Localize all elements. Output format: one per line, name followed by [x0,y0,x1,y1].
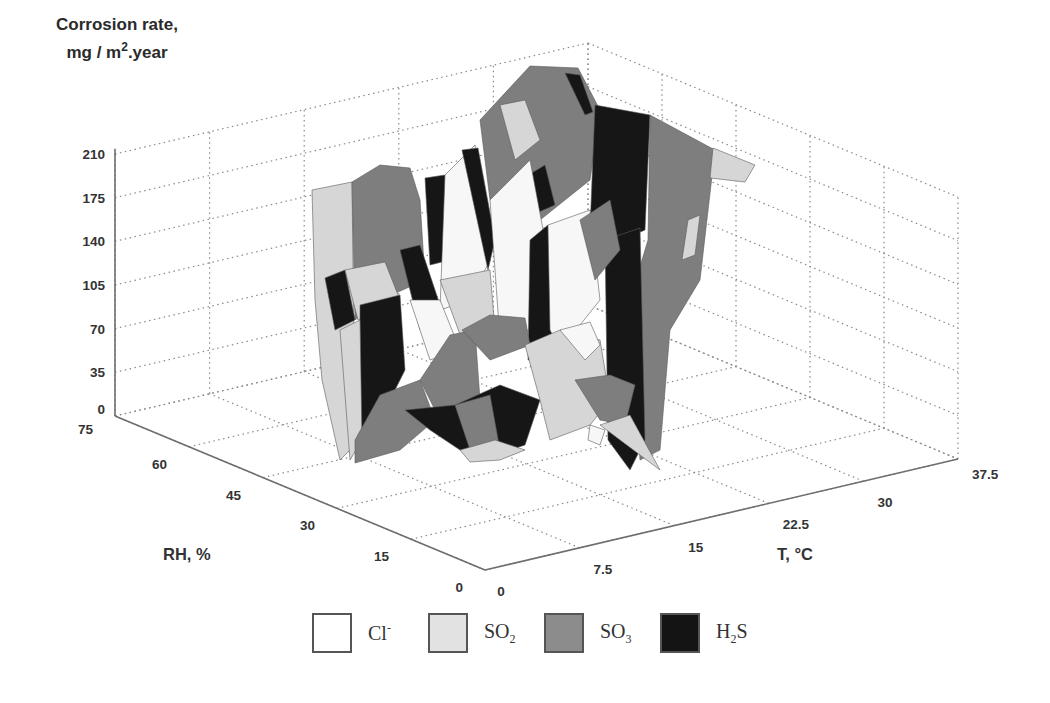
surface-patch [588,425,605,445]
z-tick-label: 70 [90,322,105,337]
z-tick-label: 210 [82,147,105,162]
surface [312,66,755,470]
t-axis-title: T, °C [777,545,813,563]
surface-plot: 035701051401752100153045607507.51522.530… [0,0,1050,703]
z-tick-label: 105 [82,278,105,293]
z-tick-label: 0 [97,402,105,417]
z-tick-label: 175 [82,191,105,206]
t-tick-label: 22.5 [783,517,810,532]
legend-swatch-so3 [544,613,584,653]
legend-item-cl: Cl- [312,613,414,653]
legend-label-cl: Cl- [368,621,414,645]
legend-label-so2: SO2 [484,620,530,647]
rh-tick-label: 45 [226,488,242,503]
t-axis-line [485,459,958,570]
legend-label-h2s: H2S [716,620,762,647]
legend: Cl- SO2 SO3 H2S [312,613,776,653]
rh-tick-label: 60 [152,457,167,472]
t-tick-label: 30 [877,495,892,510]
t-tick-label: 0 [497,584,505,599]
t-tick-label: 15 [688,540,704,555]
legend-swatch-so2 [428,613,468,653]
surface-patch [710,148,755,182]
z-tick-label: 35 [90,365,106,380]
legend-label-so3: SO3 [600,620,646,647]
legend-item-so2: SO2 [428,613,530,653]
t-tick-label: 37.5 [972,467,999,482]
rh-tick-label: 75 [78,422,94,437]
rh-tick-label: 30 [300,518,315,533]
legend-swatch-cl [312,613,352,653]
z-tick-label: 140 [82,234,105,249]
rh-axis-title: RH, % [163,545,211,563]
rh-tick-label: 15 [374,549,390,564]
t-tick-label: 7.5 [594,562,613,577]
rh-tick-label: 0 [455,580,463,595]
legend-item-so3: SO3 [544,613,646,653]
legend-swatch-h2s [660,613,700,653]
legend-item-h2s: H2S [660,613,762,653]
